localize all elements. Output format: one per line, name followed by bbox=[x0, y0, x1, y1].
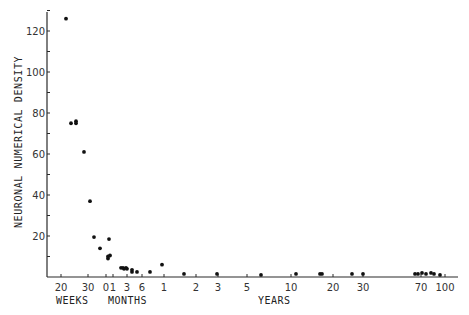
x-tick-label: 30 bbox=[357, 282, 370, 293]
y-ticks: 20406080100120 bbox=[26, 11, 50, 257]
data-point bbox=[420, 271, 424, 275]
y-tick-label: 100 bbox=[26, 67, 45, 78]
x-tick-label: 20 bbox=[327, 282, 340, 293]
data-point bbox=[361, 272, 365, 276]
x-tick-label: 100 bbox=[435, 282, 454, 293]
x-tick-label: 20 bbox=[55, 282, 68, 293]
y-axis-label: NEURONAL NUMERICAL DENSITY bbox=[13, 56, 24, 228]
data-point bbox=[125, 267, 129, 271]
x-unit-months: MONTHS bbox=[108, 295, 147, 306]
data-point bbox=[320, 272, 324, 276]
data-point bbox=[432, 272, 436, 276]
x-tick-label: 3 bbox=[124, 282, 130, 293]
data-point bbox=[74, 121, 78, 125]
y-tick-label: 80 bbox=[32, 108, 45, 119]
x-tick-label: 2 bbox=[193, 282, 199, 293]
data-point bbox=[108, 254, 112, 258]
data-point bbox=[69, 121, 73, 125]
scatter-chart: 20406080100120 20300136123510203070100 W… bbox=[0, 0, 469, 315]
data-point bbox=[259, 273, 263, 277]
data-point bbox=[64, 17, 68, 21]
data-point bbox=[424, 272, 428, 276]
data-point bbox=[416, 272, 420, 276]
y-tick-label: 120 bbox=[26, 26, 45, 37]
data-point bbox=[92, 235, 96, 239]
data-point bbox=[294, 272, 298, 276]
x-tick-label: 3 bbox=[215, 282, 221, 293]
x-tick-label: 1 bbox=[161, 282, 167, 293]
y-tick-label: 60 bbox=[32, 149, 45, 160]
data-point bbox=[82, 150, 86, 154]
x-tick-label: 0 bbox=[103, 282, 109, 293]
x-unit-years: YEARS bbox=[258, 295, 291, 306]
data-points bbox=[64, 17, 442, 277]
x-tick-label: 10 bbox=[285, 282, 298, 293]
data-point bbox=[350, 272, 354, 276]
data-point bbox=[148, 270, 152, 274]
x-tick-label: 30 bbox=[82, 282, 95, 293]
x-tick-label: 70 bbox=[415, 282, 428, 293]
data-point bbox=[88, 199, 92, 203]
x-unit-weeks: WEEKS bbox=[56, 295, 89, 306]
data-point bbox=[98, 246, 102, 250]
data-point bbox=[135, 270, 139, 274]
data-point bbox=[438, 273, 442, 277]
data-point bbox=[130, 270, 134, 274]
data-point bbox=[215, 272, 219, 276]
data-point bbox=[160, 263, 164, 267]
x-tick-label: 5 bbox=[244, 282, 250, 293]
data-point bbox=[182, 272, 186, 276]
data-point bbox=[107, 237, 111, 241]
x-tick-label: 1 bbox=[110, 282, 116, 293]
y-tick-label: 40 bbox=[32, 190, 45, 201]
x-tick-label: 6 bbox=[139, 282, 145, 293]
y-tick-label: 20 bbox=[32, 231, 45, 242]
